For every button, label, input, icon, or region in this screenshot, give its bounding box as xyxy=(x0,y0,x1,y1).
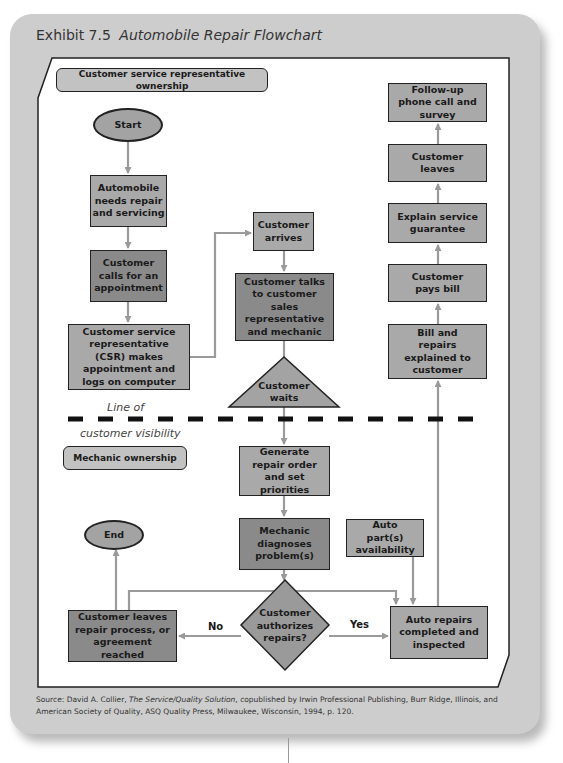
source-book-title: The Service/Quality Solution xyxy=(129,695,235,704)
node-followup: Follow-up phone call and survey xyxy=(388,83,487,122)
lane-mechanic-ownership: Mechanic ownership xyxy=(63,446,187,470)
node-repairs-completed: Auto repairs completed and inspected xyxy=(390,606,488,659)
node-customer-leaves: Customer leaves xyxy=(388,144,487,182)
node-bill-explained: Bill and repairs explained to customer xyxy=(388,324,487,379)
node-needs-repair: Automobile needs repair and servicing xyxy=(90,175,167,227)
start-node: Start xyxy=(93,108,163,142)
page-guide-line xyxy=(288,738,289,763)
source-note: Source: David A. Collier, The Service/Qu… xyxy=(36,694,506,718)
node-pays-bill: Customer pays bill xyxy=(388,264,487,302)
node-leaves-process: Customer leaves repair process, or agree… xyxy=(68,610,177,662)
node-customer-arrives: Customer arrives xyxy=(253,212,314,251)
edge-label-yes: Yes xyxy=(350,619,369,630)
edge-label-no: No xyxy=(208,621,223,632)
end-node: End xyxy=(84,520,144,550)
node-customer-waits: Customer waits xyxy=(249,378,319,406)
node-customer-calls: Customer calls for an appointment xyxy=(90,250,167,302)
node-customer-talks: Customer talks to customer sales represe… xyxy=(235,273,334,341)
lane-csr-ownership: Customer service representative ownershi… xyxy=(56,68,268,92)
node-authorizes-repairs: Customer authorizes repairs? xyxy=(251,606,319,646)
node-csr-appointment: Customer service representative (CSR) ma… xyxy=(68,324,190,390)
source-prefix: Source: David A. Collier, xyxy=(36,695,129,704)
node-service-guarantee: Explain service guarantee xyxy=(388,203,487,243)
visibility-label-bottom: customer visibility xyxy=(80,427,181,440)
node-parts-availability: Auto part(s) availability xyxy=(346,519,424,557)
node-mechanic-diagnoses: Mechanic diagnoses problem(s) xyxy=(239,518,330,570)
visibility-label-top: Line of xyxy=(107,401,144,414)
node-generate-order: Generate repair order and set priorities xyxy=(239,446,330,496)
